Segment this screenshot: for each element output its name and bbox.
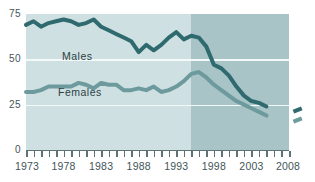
x-tick bbox=[289, 151, 291, 157]
y-tick-label-50: 50 bbox=[9, 54, 21, 64]
plot-area: Males Females bbox=[26, 14, 289, 150]
x-tick bbox=[221, 151, 223, 157]
x-tick-label-1973: 1973 bbox=[15, 160, 39, 172]
x-tick-label-1993: 1993 bbox=[164, 160, 188, 172]
x-tick bbox=[131, 151, 133, 157]
x-tick bbox=[146, 151, 148, 157]
y-axis: 75 50 25 0 bbox=[0, 0, 24, 182]
x-tick bbox=[56, 151, 58, 157]
x-tick bbox=[236, 151, 238, 157]
x-tick bbox=[41, 151, 43, 157]
series-lines bbox=[26, 14, 289, 150]
x-tick bbox=[169, 151, 171, 157]
x-tick bbox=[199, 151, 201, 157]
x-tick bbox=[109, 151, 111, 157]
x-tick-label-1983: 1983 bbox=[89, 160, 113, 172]
series-label-females: Females bbox=[58, 87, 102, 98]
x-tick bbox=[161, 151, 163, 157]
x-tick bbox=[101, 151, 103, 157]
chart-figure: 75 50 25 0 Males Females 197319781983198… bbox=[0, 0, 315, 182]
x-tick-label-2003: 2003 bbox=[239, 160, 263, 172]
x-tick-label-2008: 2008 bbox=[276, 160, 300, 172]
x-tick bbox=[281, 151, 283, 157]
x-tick bbox=[214, 151, 216, 157]
y-tick-label-0: 0 bbox=[15, 145, 21, 155]
projection-stub-females bbox=[293, 116, 303, 123]
projection-stub-males bbox=[293, 106, 303, 113]
x-tick bbox=[244, 151, 246, 157]
x-tick bbox=[94, 151, 96, 157]
x-tick bbox=[191, 151, 193, 157]
series-label-males: Males bbox=[62, 51, 93, 62]
x-tick bbox=[229, 151, 231, 157]
x-tick bbox=[64, 151, 66, 157]
x-tick bbox=[124, 151, 126, 157]
x-tick bbox=[259, 151, 261, 157]
x-tick bbox=[274, 151, 276, 157]
x-tick bbox=[71, 151, 73, 157]
x-tick bbox=[116, 151, 118, 157]
x-tick bbox=[86, 151, 88, 157]
x-tick bbox=[139, 151, 141, 157]
y-tick-label-75: 75 bbox=[9, 9, 21, 19]
y-tick-label-25: 25 bbox=[9, 100, 21, 110]
x-axis-labels: 19731978198319881993199820032008 bbox=[0, 160, 315, 176]
x-tick bbox=[79, 151, 81, 157]
x-axis bbox=[26, 150, 289, 159]
x-tick bbox=[176, 151, 178, 157]
x-tick bbox=[34, 151, 36, 157]
x-tick-label-1988: 1988 bbox=[127, 160, 151, 172]
x-tick bbox=[26, 151, 28, 157]
x-tick-label-1998: 1998 bbox=[202, 160, 226, 172]
x-tick bbox=[184, 151, 186, 157]
x-tick bbox=[266, 151, 268, 157]
x-tick bbox=[206, 151, 208, 157]
x-tick bbox=[251, 151, 253, 157]
x-tick bbox=[154, 151, 156, 157]
x-tick-label-1978: 1978 bbox=[51, 160, 75, 172]
x-tick bbox=[49, 151, 51, 157]
